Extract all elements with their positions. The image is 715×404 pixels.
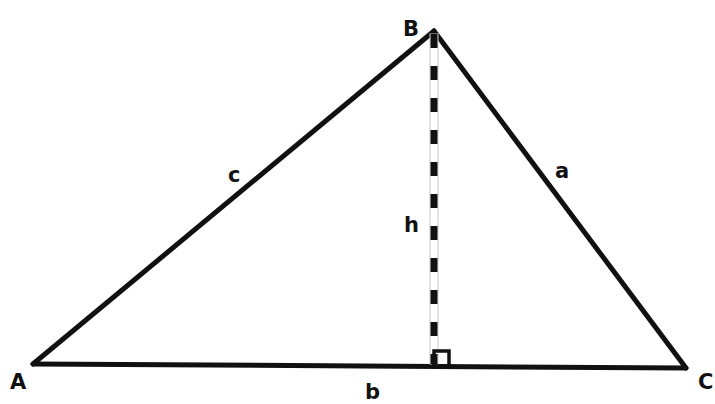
side-b-line [33, 364, 686, 368]
side-label-c: c [228, 163, 240, 187]
altitude-h-line [430, 34, 438, 364]
vertex-label-a: A [10, 370, 27, 394]
side-label-b: b [365, 380, 380, 404]
altitude-label-h: h [404, 213, 419, 237]
side-c-line [33, 31, 434, 364]
side-label-a: a [555, 159, 569, 183]
vertex-label-c: C [698, 370, 713, 394]
triangle-diagram: A B C a b c h [0, 0, 715, 404]
side-a-line [434, 31, 686, 368]
vertex-label-b: B [403, 17, 419, 41]
